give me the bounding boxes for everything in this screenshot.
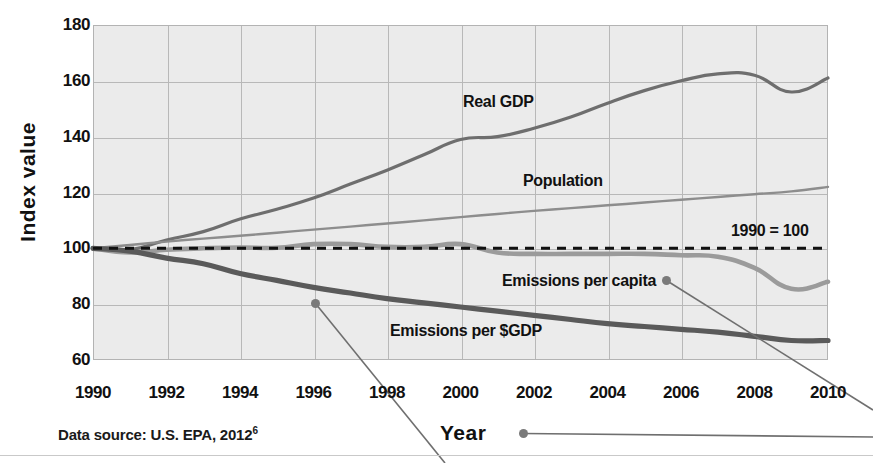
- x-tick-label: 2010: [810, 383, 846, 403]
- x-tick-label: 2008: [736, 383, 772, 403]
- callout-dot-year: [519, 429, 528, 438]
- source-note-text: Data source: U.S. EPA, 2012: [58, 426, 252, 443]
- x-tick-label: 1998: [369, 383, 405, 403]
- callout-dot-emissions-per-gdp: [311, 299, 320, 308]
- series-label-emissions-per-capita: Emissions per capita: [502, 272, 656, 290]
- series-line-real-gdp: [93, 73, 828, 251]
- callout-leader-lines: [316, 281, 873, 463]
- reference-line-label: 1990 = 100: [731, 222, 809, 240]
- x-tick-label: 1996: [295, 383, 331, 403]
- series-line-population: [93, 187, 828, 248]
- callout-dot-emissions-per-capita: [662, 276, 671, 285]
- page-hairline: [0, 455, 873, 456]
- x-tick-label: 1994: [222, 383, 258, 403]
- x-tick-label: 2002: [516, 383, 552, 403]
- x-axis-title: Year: [440, 421, 486, 445]
- x-tick-label: 2000: [442, 383, 478, 403]
- figure-root: 1801601401201008060 19901992199419961998…: [0, 0, 873, 463]
- x-tick-label: 1990: [75, 383, 111, 403]
- source-note-superscript: 6: [252, 425, 257, 436]
- series-line-emissions-per-capita: [93, 244, 828, 290]
- series-label-real-gdp: Real GDP: [463, 93, 534, 111]
- x-tick-label: 2006: [663, 383, 699, 403]
- series-label-population: Population: [523, 172, 603, 190]
- x-tick-label: 2004: [589, 383, 625, 403]
- series-paths: [93, 73, 828, 341]
- series-label-emissions-per-gdp: Emissions per $GDP: [390, 322, 542, 340]
- source-note: Data source: U.S. EPA, 20126: [58, 425, 258, 443]
- y-axis-title: Index value: [16, 92, 40, 272]
- x-tick-label: 1992: [148, 383, 184, 403]
